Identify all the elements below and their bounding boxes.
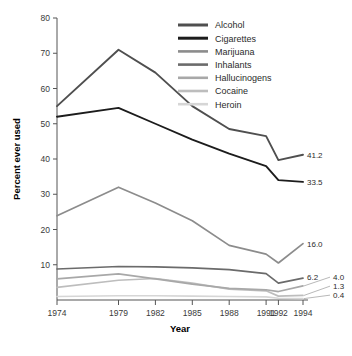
y-axis-tick-label: 50	[41, 119, 51, 129]
y-axis-tick-label: 40	[41, 154, 51, 164]
line-chart: 1020304050607080197419791982198519881991…	[0, 0, 352, 356]
series-line-marijuana	[57, 187, 303, 263]
end-label-marijuana: 16.0	[307, 240, 323, 249]
legend-label-marijuana: Marijuana	[215, 47, 255, 57]
chart-canvas: 1020304050607080197419791982198519881991…	[0, 0, 352, 356]
end-label-alcohol: 41.2	[307, 151, 323, 160]
y-axis-tick-label: 60	[41, 84, 51, 94]
y-axis-tick-label: 30	[41, 189, 51, 199]
end-label-hallucinogens: 4.0	[333, 273, 345, 282]
y-axis-tick-label: 70	[41, 48, 51, 58]
legend-label-alcohol: Alcohol	[215, 20, 245, 30]
x-axis-tick-label: 1979	[109, 308, 128, 318]
x-axis-tick-label: 1985	[183, 308, 202, 318]
x-axis-tick-label: 1988	[220, 308, 239, 318]
legend-label-cocaine: Cocaine	[215, 86, 248, 96]
x-axis-tick-label: 1994	[294, 308, 313, 318]
legend-label-hallucinogens: Hallucinogens	[215, 73, 272, 83]
series-line-inhalants	[57, 267, 303, 284]
legend-label-cigarettes: Cigarettes	[215, 34, 257, 44]
end-label-cocaine: 1.3	[333, 282, 345, 291]
x-axis-tick-label: 1982	[146, 308, 165, 318]
y-axis-tick-label: 10	[41, 260, 51, 270]
y-axis-tick-label: 80	[41, 13, 51, 23]
y-axis-title: Percent ever used	[11, 118, 22, 200]
end-label-leader-cocaine	[304, 286, 330, 295]
y-axis-tick-label: 20	[41, 225, 51, 235]
series-line-cigarettes	[57, 108, 303, 182]
x-axis-tick-label: 1974	[48, 308, 67, 318]
end-label-cigarettes: 33.5	[307, 178, 323, 187]
legend-label-heroin: Heroin	[215, 100, 242, 110]
end-label-heroin: 0.4	[333, 291, 345, 300]
legend-label-inhalants: Inhalants	[215, 60, 252, 70]
x-axis-tick-label: 1992	[269, 308, 288, 318]
end-label-inhalants: 6.2	[307, 273, 319, 282]
end-label-leader-heroin	[304, 295, 330, 298]
x-axis-title: Year	[170, 323, 190, 334]
series-line-heroin	[57, 296, 303, 299]
series-line-cocaine	[57, 279, 303, 297]
